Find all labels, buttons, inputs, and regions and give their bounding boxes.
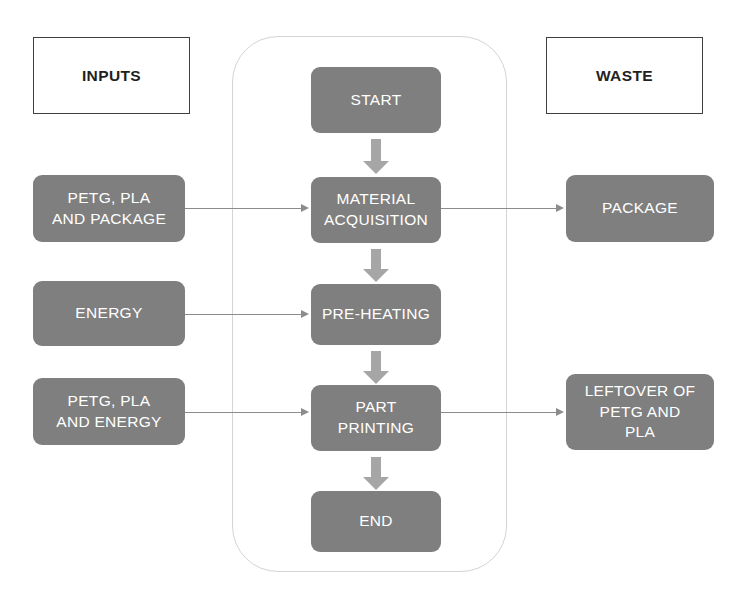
node-leftover-line-1: LEFTOVER OF bbox=[585, 381, 696, 402]
node-leftover-of-petg-and-pla[interactable]: LEFTOVER OF PETG AND PLA bbox=[566, 374, 714, 450]
connector-arrowhead bbox=[301, 408, 309, 416]
flowchart-canvas: INPUTS WASTE START MATERIAL ACQUISITION … bbox=[0, 0, 741, 616]
connector-arrowhead bbox=[301, 204, 309, 212]
node-pre-heating[interactable]: PRE-HEATING bbox=[311, 284, 441, 345]
arrow-head bbox=[363, 371, 389, 384]
arrow-start-to-material-acquisition bbox=[363, 139, 389, 174]
node-energy-line-1: ENERGY bbox=[75, 303, 142, 324]
node-material-acquisition[interactable]: MATERIAL ACQUISITION bbox=[311, 177, 441, 243]
node-pre-heating-line-1: PRE-HEATING bbox=[322, 304, 430, 325]
arrow-head bbox=[363, 269, 389, 282]
arrow-shaft bbox=[371, 351, 381, 371]
node-petg-pla-and-package-line-1: PETG, PLA bbox=[68, 188, 151, 209]
node-petg-pla-and-package-line-2: AND PACKAGE bbox=[52, 209, 166, 230]
node-material-acquisition-line-1: MATERIAL bbox=[337, 189, 416, 210]
legend-waste-label: WASTE bbox=[596, 67, 653, 85]
arrow-part-printing-to-end bbox=[363, 457, 389, 490]
arrow-material-acquisition-to-pre-heating bbox=[363, 249, 389, 282]
node-petg-pla-and-energy-line-1: PETG, PLA bbox=[68, 391, 151, 412]
node-petg-pla-and-energy-line-2: AND ENERGY bbox=[56, 412, 162, 433]
node-energy[interactable]: ENERGY bbox=[33, 281, 185, 346]
node-start-line-1: START bbox=[351, 90, 402, 111]
connector-petg-energy-to-part-printing bbox=[185, 412, 303, 413]
legend-inputs-label: INPUTS bbox=[82, 67, 141, 85]
connector-arrowhead bbox=[556, 204, 564, 212]
connector-arrowhead bbox=[556, 408, 564, 416]
node-package[interactable]: PACKAGE bbox=[566, 175, 714, 242]
node-package-line-1: PACKAGE bbox=[602, 198, 678, 219]
arrow-shaft bbox=[371, 249, 381, 269]
node-start[interactable]: START bbox=[311, 67, 441, 133]
node-petg-pla-and-energy[interactable]: PETG, PLA AND ENERGY bbox=[33, 378, 185, 445]
arrow-pre-heating-to-part-printing bbox=[363, 351, 389, 384]
node-part-printing-line-2: PRINTING bbox=[338, 418, 414, 439]
node-leftover-line-2: PETG AND bbox=[600, 402, 681, 423]
connector-energy-to-pre-heating bbox=[185, 314, 303, 315]
node-end-line-1: END bbox=[359, 511, 393, 532]
arrow-shaft bbox=[371, 457, 381, 477]
arrow-head bbox=[363, 477, 389, 490]
node-material-acquisition-line-2: ACQUISITION bbox=[324, 210, 428, 231]
legend-waste-box: WASTE bbox=[546, 37, 703, 114]
connector-material-acquisition-to-package bbox=[441, 208, 558, 209]
arrow-head bbox=[363, 161, 389, 174]
node-part-printing-line-1: PART bbox=[355, 397, 396, 418]
node-leftover-line-3: PLA bbox=[625, 422, 655, 443]
connector-petg-package-to-material-acquisition bbox=[185, 208, 303, 209]
node-part-printing[interactable]: PART PRINTING bbox=[311, 385, 441, 451]
connector-part-printing-to-leftover bbox=[441, 412, 558, 413]
connector-arrowhead bbox=[301, 310, 309, 318]
legend-inputs-box: INPUTS bbox=[33, 37, 190, 114]
node-petg-pla-and-package[interactable]: PETG, PLA AND PACKAGE bbox=[33, 175, 185, 242]
arrow-shaft bbox=[371, 139, 381, 161]
node-end[interactable]: END bbox=[311, 491, 441, 552]
